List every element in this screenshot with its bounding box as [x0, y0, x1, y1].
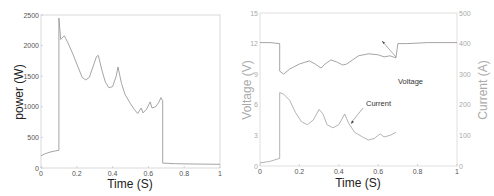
x-tick-label: 1 [218, 170, 222, 177]
voltage-tick-label: 9 [254, 71, 258, 78]
current-tick-label: 400 [459, 40, 471, 47]
vc-annotations: Voltage Current [351, 41, 423, 124]
power-chart: 00.20.40.60.81 05001000150020002500 Time… [12, 12, 222, 192]
power-y-axis-label: power (W) [12, 64, 26, 119]
voltage-tick-label: 15 [250, 10, 258, 17]
voltage-series-line [260, 43, 457, 75]
voltage-tick-label: 12 [250, 40, 258, 47]
voltage-tick-label: 0 [254, 163, 258, 170]
current-tick-label: 0 [459, 163, 463, 170]
power-y-ticks: 05001000150020002500 [23, 12, 43, 172]
x-tick-label: 0.4 [108, 170, 118, 177]
x-tick-label: 0.4 [334, 168, 344, 175]
voltage-annotation: Voltage [398, 77, 423, 86]
voltage-tick-label: 6 [254, 101, 258, 108]
x-tick-label: 0.6 [144, 170, 154, 177]
x-tick-label: 0 [39, 170, 43, 177]
y-tick-label: 2500 [23, 12, 39, 19]
current-tick-label: 500 [459, 10, 471, 17]
current-tick-label: 100 [459, 132, 471, 139]
y-tick-label: 2000 [23, 42, 39, 49]
power-plot-frame [41, 15, 220, 168]
power-series-line [41, 18, 220, 164]
current-tick-label: 300 [459, 71, 471, 78]
current-arrow [351, 108, 363, 123]
voltage-y-axis-label: Voltage (V) [240, 60, 254, 119]
current-y-ticks: 0100200300400500 [459, 10, 471, 170]
power-x-axis-label: Time (S) [107, 177, 153, 191]
current-y-axis-label: Current (A) [476, 60, 490, 119]
figure-canvas: 00.20.40.60.81 05001000150020002500 Time… [0, 0, 494, 196]
x-tick-label: 0.8 [179, 170, 189, 177]
voltage-tick-label: 3 [254, 132, 258, 139]
x-tick-label: 0 [258, 168, 262, 175]
x-tick-label: 0.6 [373, 168, 383, 175]
current-tick-label: 200 [459, 101, 471, 108]
x-tick-label: 0.8 [413, 168, 423, 175]
x-tick-label: 0.2 [72, 170, 82, 177]
current-annotation: Current [366, 99, 392, 108]
y-tick-label: 0 [35, 165, 39, 172]
voltage-current-chart: 00.20.40.60.81 03691215 0100200300400500… [240, 10, 490, 191]
vc-x-axis-label: Time (S) [335, 176, 381, 190]
vc-plot-frame [260, 13, 457, 166]
y-tick-label: 500 [27, 134, 39, 141]
voltage-arrow [382, 41, 396, 57]
x-tick-label: 0.2 [295, 168, 305, 175]
